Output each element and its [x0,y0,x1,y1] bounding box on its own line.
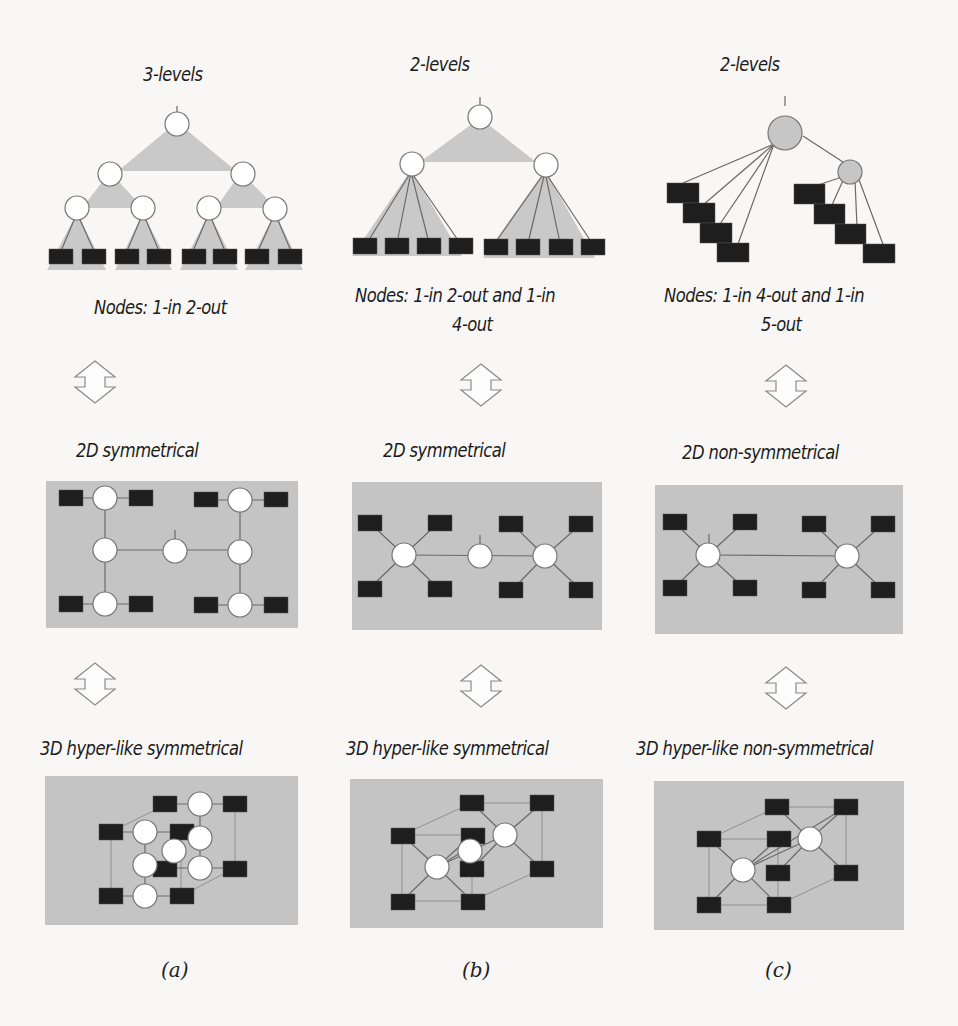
col-a-2d-panel [46,481,298,628]
double-arrow-icon [766,667,806,709]
col-b-2d-panel [352,482,602,630]
col-a-3d-panel [45,776,298,925]
col-c-2d-panel [655,485,903,634]
double-arrow-icon [75,361,115,403]
double-arrow-icon [75,663,115,705]
col-c-tree [667,96,895,263]
col-a-tree [47,106,303,270]
double-arrow-icon [766,365,806,407]
col-b-3d-panel [350,779,603,928]
double-arrow-icon [461,364,501,406]
double-arrow-icon [461,665,501,707]
col-b-tree [352,97,605,258]
tree-topology-figure: .tri { fill:#c9c9c9; } .leaf { fill:#1e1… [0,0,958,1026]
col-c-3d-panel [654,781,904,930]
